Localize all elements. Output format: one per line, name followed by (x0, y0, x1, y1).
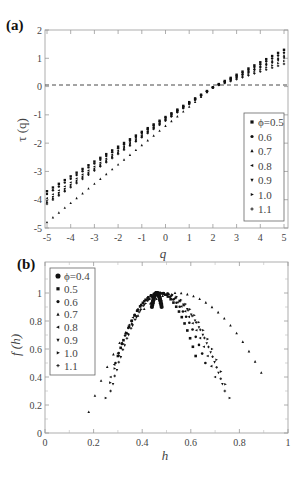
data-point-circle (124, 334, 127, 337)
data-point-triangle-left (202, 345, 205, 348)
data-point-circle (182, 310, 185, 313)
data-point-triangle-right (114, 367, 117, 370)
data-point-triangle-right (193, 314, 196, 317)
data-point-triangle-left (195, 329, 198, 332)
figure: (a) -5-4-3-2-1012345-5-4-3-2-1012 q τ (q… (0, 0, 304, 479)
y-tick-label: 1 (37, 53, 42, 64)
data-point-square (250, 120, 253, 123)
y-tick-label: 0.2 (30, 400, 43, 411)
data-point-circle (105, 155, 107, 157)
data-point-triangle-right (198, 321, 201, 324)
x-tick-label: -3 (90, 232, 98, 243)
data-point-triangle-left (105, 157, 107, 159)
data-point-circle (127, 327, 130, 330)
data-point-triangle-up (143, 307, 146, 310)
data-point-triangle-down (123, 344, 126, 347)
data-point-triangle-down (217, 372, 220, 375)
data-point-triangle-up (123, 158, 125, 160)
data-point-circle (194, 336, 197, 339)
data-point-square (64, 179, 66, 181)
data-point-triangle-up (81, 192, 83, 194)
y-tick-label: 0.8 (30, 316, 43, 327)
data-point-square (277, 52, 279, 54)
data-point-triangle-up (248, 350, 251, 353)
data-point-triangle-up (87, 187, 89, 189)
data-point-triangle-left (99, 161, 101, 163)
data-point-triangle-up (64, 206, 66, 208)
data-point-triangle-up (164, 125, 166, 127)
data-point-plus (203, 337, 206, 340)
data-point-circle (99, 159, 101, 161)
legend-a-entry: 0.8 (258, 160, 272, 172)
data-point-triangle-up (70, 202, 72, 204)
data-point-triangle-up (176, 115, 178, 117)
data-point-triangle-up (205, 301, 208, 304)
legend-b-entry: 0.7 (64, 308, 78, 320)
x-tick-label: -2 (114, 232, 122, 243)
legend-b-entry: 0.9 (64, 334, 78, 346)
data-point-circle (58, 185, 60, 187)
data-point-triangle-up (211, 306, 214, 309)
data-point-square (70, 175, 72, 177)
data-point-triangle-up (198, 297, 201, 300)
data-point-triangle-up (141, 144, 143, 146)
y-tick-label: -1 (34, 109, 42, 120)
data-point-plus (224, 390, 227, 393)
data-point-triangle-up (260, 371, 263, 374)
data-point-triangle-down (277, 60, 279, 62)
data-point-triangle-right (229, 397, 232, 400)
data-point-circle (133, 314, 136, 317)
data-point-plus (126, 337, 129, 340)
data-point-plus (199, 328, 202, 331)
data-point-square (87, 164, 89, 166)
data-point-circle (185, 315, 188, 318)
y-tick-label: -3 (34, 166, 42, 177)
data-point-circle (191, 328, 194, 331)
data-point-triangle-down (116, 369, 119, 372)
data-point-triangle-up (87, 410, 90, 413)
data-point-triangle-up (135, 149, 137, 151)
x-tick-label: 1 (187, 232, 192, 243)
data-point-circle (198, 344, 201, 347)
data-point-triangle-left (214, 376, 217, 379)
data-point-plus (211, 355, 214, 358)
data-point-triangle-up (182, 110, 184, 112)
x-tick-label: 0 (43, 437, 48, 448)
data-point-circle (93, 162, 95, 164)
panel-a: (a) -5-4-3-2-1012345-5-4-3-2-1012 q τ (q… (6, 17, 288, 261)
data-point-circle-large (55, 273, 60, 278)
data-point-triangle-down (112, 383, 115, 386)
data-point-triangle-up (192, 295, 195, 298)
data-point-triangle-up (99, 178, 101, 180)
data-point-square (265, 58, 267, 60)
x-tick-label: 5 (282, 232, 287, 243)
panel-a-label: (a) (6, 17, 24, 34)
data-point-triangle-down (205, 342, 208, 345)
data-point-triangle-right (105, 397, 108, 400)
data-point-circle (111, 151, 113, 153)
data-point-square (271, 55, 273, 57)
data-point-triangle-left (57, 189, 59, 191)
data-point-circle (64, 181, 66, 183)
data-point-triangle-up (100, 379, 103, 382)
data-point-triangle-up (117, 163, 119, 165)
data-point-square (119, 347, 122, 350)
data-point-triangle-up (241, 340, 244, 343)
data-point-circle (250, 135, 253, 138)
y-tick-label: -4 (34, 194, 42, 205)
x-tick-label: 0.2 (87, 437, 100, 448)
data-point-triangle-left (191, 322, 194, 325)
legend-b-entry: 0.5 (64, 283, 78, 295)
x-tick-label: -1 (138, 232, 146, 243)
data-point-triangle-right (283, 60, 285, 62)
data-point-triangle-up (186, 293, 189, 296)
data-point-triangle-up (106, 365, 109, 368)
data-point-triangle-left (206, 355, 209, 358)
data-point-triangle-up (58, 211, 60, 213)
data-point-circle (70, 178, 72, 180)
data-point-circle (204, 362, 207, 365)
data-point-triangle-up (158, 129, 160, 131)
legend-b: ϕ=0.40.50.60.70.80.91.01.1 (50, 268, 95, 375)
data-point-triangle-down (209, 351, 212, 354)
data-point-triangle-left (69, 181, 71, 183)
